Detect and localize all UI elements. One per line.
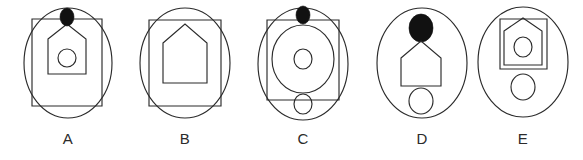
- figure-drawing-a: [8, 0, 128, 128]
- black-dot: [409, 14, 433, 42]
- square-frame: [149, 20, 221, 106]
- large-inner-ellipse: [272, 25, 334, 93]
- figure-panel: ABCDE: [0, 0, 583, 160]
- bottom-circle: [409, 88, 433, 114]
- black-dot: [296, 6, 310, 24]
- figure-option-e[interactable]: E: [463, 0, 583, 160]
- black-dot: [60, 8, 74, 26]
- figure-label-b: B: [125, 130, 245, 148]
- house-pentagon: [163, 24, 207, 83]
- figure-drawing-e: [463, 0, 583, 128]
- inner-circle: [58, 49, 76, 67]
- house-pentagon: [504, 18, 542, 65]
- figure-drawing-b: [125, 0, 245, 128]
- figure-label-e: E: [463, 130, 583, 148]
- square-frame: [500, 19, 547, 69]
- figure-label-a: A: [8, 130, 128, 148]
- figure-label-c: C: [242, 130, 364, 148]
- figure-option-c[interactable]: C: [242, 0, 364, 160]
- square-frame: [267, 20, 339, 100]
- bottom-circle: [294, 94, 312, 114]
- house-pentagon: [401, 41, 441, 86]
- bottom-circle: [511, 74, 535, 100]
- figure-option-b[interactable]: B: [125, 0, 245, 160]
- inner-circle: [514, 37, 532, 57]
- inner-circle: [294, 49, 312, 69]
- square-frame: [32, 19, 102, 106]
- figure-option-a[interactable]: A: [8, 0, 128, 160]
- figure-drawing-c: [242, 0, 364, 128]
